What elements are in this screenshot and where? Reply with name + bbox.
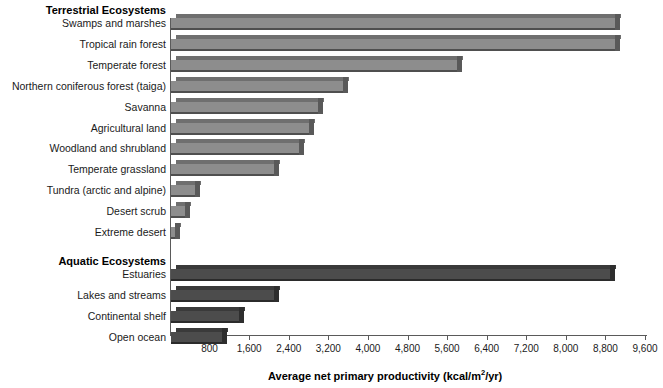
bar-side-face: [615, 35, 620, 51]
x-tick-label-10: 8,800: [593, 343, 618, 354]
bar-agricultural-land: [171, 123, 310, 135]
npp-bar-chart: Terrestrial EcosystemsSwamps and marshes…: [0, 0, 663, 388]
bar-side-face: [343, 77, 348, 93]
x-axis-line: [170, 335, 647, 336]
bar-side-face: [274, 286, 279, 302]
category-label-savanna: Savanna: [0, 101, 166, 113]
bar-swamps-and-marshes: [171, 18, 616, 30]
category-label-temperate-grassland: Temperate grassland: [0, 163, 166, 175]
bar-side-face: [309, 119, 314, 135]
bar-savanna: [171, 102, 319, 114]
bar-temperate-forest: [171, 60, 458, 72]
bar-extreme-desert: [171, 227, 176, 239]
bar-front-face: [171, 206, 186, 218]
category-label-column: Terrestrial EcosystemsSwamps and marshes…: [0, 0, 166, 388]
x-tick-6: [447, 335, 448, 340]
x-tick-label-11: 9,600: [632, 343, 657, 354]
group-heading-aquatic: Aquatic Ecosystems: [0, 255, 166, 267]
x-tick-8: [526, 335, 527, 340]
category-label-desert-scrub: Desert scrub: [0, 205, 166, 217]
x-tick-label-3: 3,200: [316, 343, 341, 354]
x-tick-4: [368, 335, 369, 340]
bar-front-face: [171, 123, 310, 135]
bar-front-face: [171, 269, 611, 281]
x-tick-label-5: 4,800: [395, 343, 420, 354]
x-tick-10: [605, 335, 606, 340]
category-label-northern-coniferous-forest-taiga: Northern coniferous forest (taiga): [0, 80, 166, 92]
bar-continental-shelf: [171, 311, 240, 323]
category-label-open-ocean: Open ocean: [0, 331, 166, 343]
x-tick-label-0: 800: [201, 343, 218, 354]
category-label-agricultural-land: Agricultural land: [0, 122, 166, 134]
bar-front-face: [171, 39, 616, 51]
x-tick-label-1: 1,600: [237, 343, 262, 354]
x-tick-5: [408, 335, 409, 340]
bar-temperate-grassland: [171, 164, 275, 176]
bar-desert-scrub: [171, 206, 186, 218]
x-tick-7: [487, 335, 488, 340]
category-label-estuaries: Estuaries: [0, 268, 166, 280]
x-tick-label-2: 2,400: [276, 343, 301, 354]
category-label-lakes-and-streams: Lakes and streams: [0, 289, 166, 301]
bar-front-face: [171, 102, 319, 114]
bar-estuaries: [171, 269, 611, 281]
bar-side-face: [175, 223, 180, 239]
category-label-woodland-and-shrubland: Woodland and shrubland: [0, 142, 166, 154]
x-tick-1: [249, 335, 250, 340]
bar-side-face: [239, 307, 244, 323]
x-axis-title-tail: /yr): [485, 370, 502, 382]
bar-side-face: [615, 14, 620, 30]
plot-area: 8001,6002,4003,2004,0004,8005,6006,4007,…: [170, 18, 645, 335]
bar-side-face: [274, 160, 279, 176]
bar-open-ocean: [171, 332, 223, 344]
bar-northern-coniferous-forest-taiga: [171, 81, 344, 93]
bar-side-face: [610, 265, 615, 281]
bar-side-face: [299, 139, 304, 155]
bar-side-face: [185, 202, 190, 218]
category-label-tropical-rain-forest: Tropical rain forest: [0, 38, 166, 50]
category-label-swamps-and-marshes: Swamps and marshes: [0, 17, 166, 29]
bar-side-face: [457, 56, 462, 72]
x-tick-9: [566, 335, 567, 340]
bar-woodland-and-shrubland: [171, 143, 300, 155]
x-tick-label-6: 5,600: [435, 343, 460, 354]
x-tick-3: [328, 335, 329, 340]
bar-tropical-rain-forest: [171, 39, 616, 51]
bar-front-face: [171, 143, 300, 155]
bar-front-face: [171, 332, 223, 344]
bar-front-face: [171, 311, 240, 323]
group-heading-terrestrial: Terrestrial Ecosystems: [0, 4, 166, 16]
bar-tundra-arctic-and-alpine: [171, 185, 196, 197]
x-tick-label-4: 4,000: [355, 343, 380, 354]
bar-side-face: [222, 328, 227, 344]
bar-front-face: [171, 81, 344, 93]
category-label-temperate-forest: Temperate forest: [0, 59, 166, 71]
x-axis-title-main: Average net primary productivity (kcal/m: [268, 370, 481, 382]
bar-front-face: [171, 185, 196, 197]
bar-front-face: [171, 164, 275, 176]
x-axis-title: Average net primary productivity (kcal/m…: [268, 368, 502, 382]
x-tick-label-9: 8,000: [553, 343, 578, 354]
category-label-extreme-desert: Extreme desert: [0, 226, 166, 238]
category-label-continental-shelf: Continental shelf: [0, 310, 166, 322]
bar-front-face: [171, 60, 458, 72]
category-label-tundra-arctic-and-alpine: Tundra (arctic and alpine): [0, 184, 166, 196]
x-tick-label-8: 7,200: [514, 343, 539, 354]
bar-front-face: [171, 290, 275, 302]
bar-lakes-and-streams: [171, 290, 275, 302]
x-tick-label-7: 6,400: [474, 343, 499, 354]
bar-side-face: [195, 181, 200, 197]
bar-side-face: [318, 98, 323, 114]
x-tick-2: [289, 335, 290, 340]
bar-front-face: [171, 18, 616, 30]
x-tick-11: [645, 335, 646, 340]
